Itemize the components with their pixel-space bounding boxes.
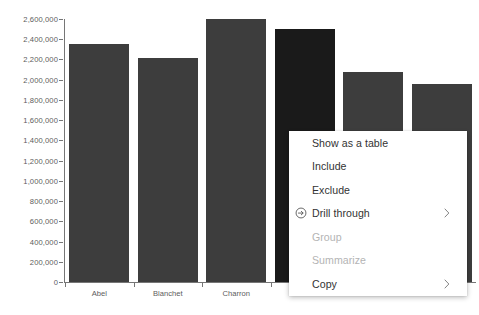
y-axis-tick-mark — [59, 282, 63, 283]
y-axis-tick-label: 1,600,000 — [23, 116, 58, 125]
menu-item-label: Include — [312, 160, 347, 172]
menu-item-copy[interactable]: Copy — [289, 272, 467, 296]
y-axis-tick-mark — [59, 201, 63, 202]
chevron-right-icon — [443, 279, 451, 289]
chevron-right-icon — [443, 208, 451, 218]
menu-item-label: Show as a table — [312, 137, 388, 149]
menu-item-label: Group — [312, 231, 342, 243]
y-axis-tick-mark — [59, 161, 63, 162]
y-axis-tick-mark — [59, 39, 63, 40]
circle-arrow-right-icon — [295, 207, 307, 219]
bar[interactable] — [138, 58, 198, 282]
y-axis-tick-label: 800,000 — [30, 197, 58, 206]
y-axis-tick-mark — [59, 100, 63, 101]
y-axis-tick-label: 1,000,000 — [23, 176, 58, 185]
y-axis-tick-mark — [59, 140, 63, 141]
menu-item-exclude[interactable]: Exclude — [289, 178, 467, 202]
y-axis-tick-label: 400,000 — [30, 237, 58, 246]
x-axis-tick-label: Charron — [223, 289, 250, 298]
y-axis-tick-mark — [59, 262, 63, 263]
menu-item-drill-through[interactable]: Drill through — [289, 202, 467, 226]
y-axis-tick-mark — [59, 181, 63, 182]
x-axis-tick-label: Abel — [92, 289, 107, 298]
y-axis-tick-mark — [59, 80, 63, 81]
y-axis-tick-label: 1,800,000 — [23, 95, 58, 104]
bar[interactable] — [206, 19, 266, 282]
y-axis-tick-label: 1,400,000 — [23, 136, 58, 145]
bar[interactable] — [69, 44, 129, 282]
y-axis-tick-labels: 2,600,0002,400,0002,200,0002,000,0001,80… — [0, 0, 58, 315]
context-menu[interactable]: Show as a tableIncludeExcludeDrill throu… — [289, 131, 467, 296]
y-axis-tick-mark — [59, 120, 63, 121]
menu-item-label: Copy — [312, 278, 337, 290]
menu-item-summarize: Summarize — [289, 249, 467, 273]
y-axis-line — [64, 19, 65, 283]
y-axis-tick-mark — [59, 19, 63, 20]
y-axis-tick-mark — [59, 59, 63, 60]
y-axis-tick-label: 1,200,000 — [23, 156, 58, 165]
x-axis-tick-mark — [271, 283, 272, 287]
y-axis-tick-mark — [59, 242, 63, 243]
menu-item-group: Group — [289, 225, 467, 249]
y-axis-tick-label: 0 — [54, 278, 58, 287]
chart-with-context-menu-screen: 2,600,0002,400,0002,200,0002,000,0001,80… — [0, 0, 479, 315]
menu-item-label: Summarize — [312, 254, 366, 266]
y-axis-tick-label: 2,600,000 — [23, 15, 58, 24]
y-axis-tick-label: 600,000 — [30, 217, 58, 226]
y-axis-tick-label: 200,000 — [30, 257, 58, 266]
y-axis-tick-label: 2,200,000 — [23, 55, 58, 64]
y-axis-tick-label: 2,000,000 — [23, 75, 58, 84]
menu-item-show-as-a-table[interactable]: Show as a table — [289, 131, 467, 155]
x-axis-tick-mark — [202, 283, 203, 287]
x-axis-tick-mark — [65, 283, 66, 287]
menu-item-label: Drill through — [312, 207, 370, 219]
y-axis-tick-label: 2,400,000 — [23, 35, 58, 44]
x-axis-tick-mark — [134, 283, 135, 287]
y-axis-tick-mark — [59, 221, 63, 222]
menu-item-label: Exclude — [312, 184, 350, 196]
menu-item-include[interactable]: Include — [289, 155, 467, 179]
x-axis-tick-label: Blanchet — [153, 289, 183, 298]
